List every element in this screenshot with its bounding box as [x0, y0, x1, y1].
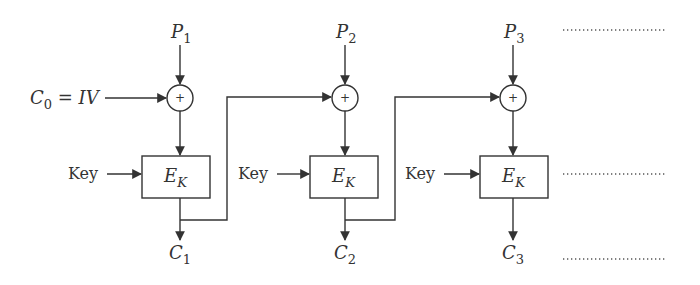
ciphertext-label-3: C3 — [502, 242, 524, 267]
ciphertext-label-1: C1 — [169, 242, 191, 267]
xor-icon: + — [340, 91, 350, 105]
iv-label: C0 = IV — [30, 87, 101, 112]
plaintext-label-1: P1 — [170, 21, 191, 46]
key-label-3: Key — [405, 164, 435, 183]
cbc-diagram: + + + P1 P2 P3 C0 = IV Key Key Key EK EK… — [0, 0, 700, 285]
key-label-1: Key — [68, 164, 98, 183]
xor-icon: + — [508, 91, 518, 105]
plaintext-label-2: P2 — [335, 21, 356, 46]
xor-icon: + — [175, 91, 185, 105]
ciphertext-label-2: C2 — [334, 242, 356, 267]
key-label-2: Key — [238, 164, 268, 183]
plaintext-label-3: P3 — [503, 21, 524, 46]
